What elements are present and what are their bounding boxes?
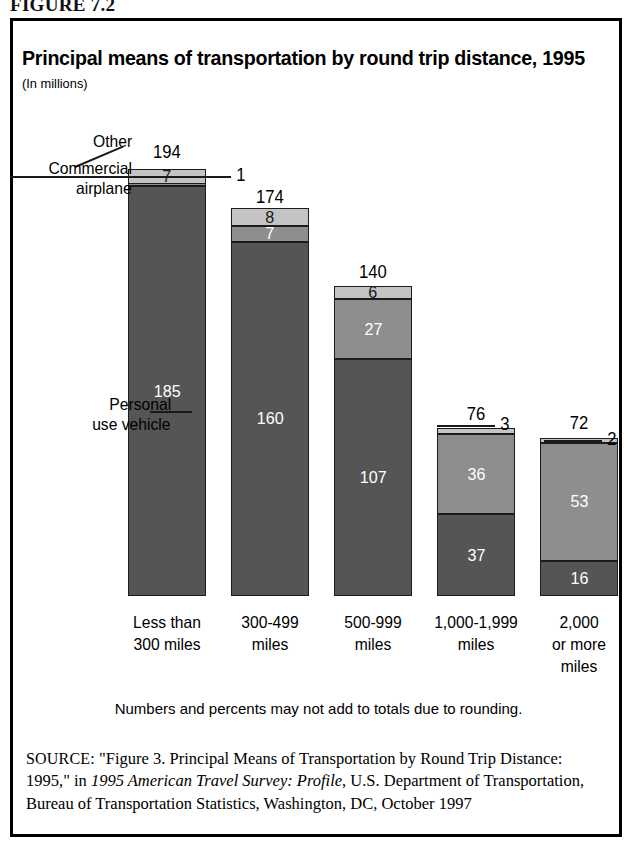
x-axis-label-line: miles [530,656,629,678]
bar-total-label: 72 [542,413,616,434]
chart-subtitle: (In millions) [22,76,88,91]
leader-line-value-3 [437,425,495,427]
bar-group[interactable]: 3736 [437,428,515,596]
leader-line-personal-use [150,411,192,413]
bar-total-label: 174 [233,187,307,208]
x-axis-label-line: or more [530,634,629,656]
segment-value: 16 [570,570,588,587]
segment-value: 8 [266,209,275,226]
bar-segment-pv[interactable]: 37 [437,514,515,596]
x-axis-label-line: 1,000-1,999 [427,612,526,634]
bar-segment-ot[interactable]: 6 [334,286,412,299]
segment-value: 160 [257,410,284,427]
segment-value: 7 [266,226,275,242]
source-prefix: SOURCE: [26,750,95,767]
bar-segment-pv[interactable]: 16 [540,561,618,596]
segment-value: 36 [467,466,485,483]
segment-value: 6 [369,286,378,299]
x-axis-label-line: miles [221,634,320,656]
x-axis-label-line: 500-999 [324,612,423,634]
x-axis-label-line: 300 miles [118,634,217,656]
x-axis-label-line: Less than [118,612,217,634]
callout-commercial-airplane-line2: airplane [76,180,132,198]
bar-segment-ca[interactable]: 36 [437,434,515,514]
chart-note: Numbers and percents may not add to tota… [0,700,637,717]
callout-personal-use-line2: use vehicle [93,416,171,434]
x-axis-label: 500-999miles [324,612,423,656]
source-italic-title: 1995 American Travel Survey: Profile [91,771,342,790]
segment-value: 107 [360,469,387,486]
bar-group[interactable]: 16078 [231,211,309,596]
bar-segment-ot[interactable]: 8 [231,208,309,226]
chart-title: Principal means of transportation by rou… [22,46,585,70]
external-value-label: 2 [607,429,616,450]
external-value-label: 1 [236,165,245,186]
bar-segment-pv[interactable]: 185 [128,186,206,596]
bar-segment-ca[interactable]: 53 [540,443,618,560]
bar-total-label: 140 [336,262,410,283]
leader-line-value-2 [544,440,602,442]
x-axis-label: 1,000-1,999miles [427,612,526,656]
x-axis-label: Less than300 miles [118,612,217,656]
bar-group[interactable]: 1653 [540,437,618,596]
bar-total-label: 194 [130,142,204,163]
bar-segment-pv[interactable]: 107 [334,359,412,596]
x-axis-label-line: miles [324,634,423,656]
x-axis-label-line: 2,000 [530,612,629,634]
bar-group[interactable]: 1857 [128,166,206,596]
external-value-label: 3 [500,414,509,435]
bar-segment-ca[interactable]: 27 [334,299,412,359]
x-axis-label-line: 300-499 [221,612,320,634]
callout-other: Other [93,133,132,151]
bar-group[interactable]: 107276 [334,286,412,596]
x-axis-label: 300-499miles [221,612,320,656]
x-axis-label: 2,000or moremiles [530,612,629,677]
leader-line-value-1 [128,176,231,178]
segment-value: 37 [467,547,485,564]
bar-segment-ca[interactable]: 7 [231,226,309,242]
segment-value: 53 [570,493,588,510]
segment-value: 27 [364,321,382,338]
leader-line-commercial-airplane [10,176,128,178]
bar-segment-pv[interactable]: 160 [231,242,309,596]
source-citation: SOURCE: "Figure 3. Principal Means of Tr… [26,748,601,815]
figure-label: FIGURE 7.2 [10,0,115,16]
x-axis-label-line: miles [427,634,526,656]
